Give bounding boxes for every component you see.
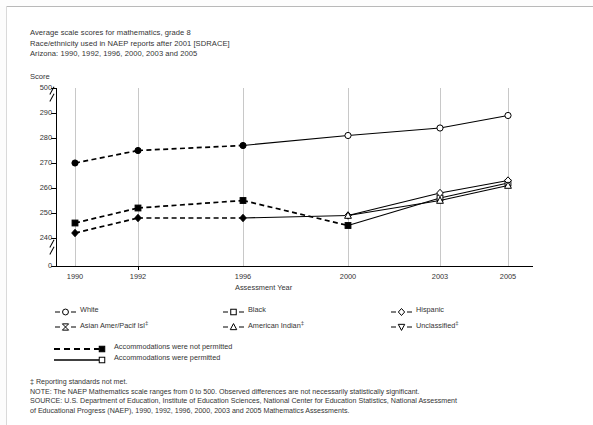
series-line-black bbox=[243, 201, 348, 226]
dashed-line-filled-square-icon bbox=[54, 344, 112, 355]
series-line-black bbox=[440, 183, 508, 198]
triangle-up-icon bbox=[230, 324, 236, 330]
triangle-up-icon bbox=[222, 321, 246, 333]
data-point-black-1996 bbox=[240, 198, 246, 204]
data-point-white-1992 bbox=[135, 147, 141, 153]
legend-label: Black bbox=[248, 305, 266, 314]
source-line-2: of Educational Progress (NAEP), 1990, 19… bbox=[30, 407, 575, 417]
bowtie-icon bbox=[54, 321, 78, 333]
series-line-black bbox=[138, 201, 243, 209]
series-line-hispanic bbox=[243, 216, 348, 219]
plot-area: 500 290 280 270 260 250 240 0 1990 1992 … bbox=[0, 0, 593, 300]
series-line-white bbox=[75, 151, 138, 164]
accommodations-legend-label: Accommodations were not permitted bbox=[114, 342, 232, 351]
legend-label: Hispanic bbox=[416, 305, 444, 314]
note-scale-range: NOTE: The NAEP Mathematics scale ranges … bbox=[30, 388, 575, 398]
series-line-american-indian bbox=[348, 201, 440, 216]
series-legend: WhiteBlackHispanicAsian Amer/Pacif Isl‡A… bbox=[54, 300, 534, 340]
series-line-white bbox=[138, 146, 243, 151]
legend-label: American Indian‡ bbox=[248, 320, 304, 330]
series-line-white bbox=[440, 116, 508, 129]
triangle-down-icon bbox=[398, 324, 404, 330]
accommodations-legend: Accommodations were not permittedAccommo… bbox=[54, 344, 354, 366]
legend-label: Unclassified‡ bbox=[416, 320, 459, 330]
diamond-icon bbox=[398, 308, 404, 315]
accommodations-legend-label: Accommodations were permitted bbox=[114, 353, 220, 362]
source-line-1: SOURCE: U.S. Department of Education, In… bbox=[30, 397, 575, 407]
series-line-white bbox=[243, 136, 348, 146]
legend-label: Asian Amer/Pacif Isl‡ bbox=[80, 320, 148, 330]
diamond-icon bbox=[390, 306, 414, 318]
reporting-standards-dagger: ‡ bbox=[145, 320, 148, 326]
square-icon bbox=[231, 309, 237, 315]
data-point-white-2003 bbox=[437, 125, 443, 131]
data-point-white-2005 bbox=[505, 112, 511, 118]
series-lines bbox=[0, 0, 593, 300]
data-point-white-1996 bbox=[240, 142, 246, 148]
bowtie-icon bbox=[62, 324, 68, 330]
data-point-hispanic-1992 bbox=[135, 214, 142, 221]
filled-square-icon bbox=[99, 346, 105, 352]
square-icon bbox=[222, 306, 246, 318]
triangle-down-icon bbox=[390, 321, 414, 333]
data-point-black-1992 bbox=[135, 205, 141, 211]
data-point-black-2000 bbox=[345, 223, 351, 229]
chart-page: Average scale scores for mathematics, gr… bbox=[0, 0, 593, 425]
series-line-white bbox=[348, 128, 440, 136]
series-line-american-indian bbox=[440, 186, 508, 201]
data-point-hispanic-1990 bbox=[72, 229, 79, 236]
notes-block: ‡ Reporting standards not met. NOTE: The… bbox=[30, 378, 575, 416]
footnote-reporting-standards: ‡ Reporting standards not met. bbox=[30, 378, 575, 388]
data-point-white-2000 bbox=[345, 132, 351, 138]
circle-icon bbox=[54, 306, 78, 318]
solid-line-open-square-icon bbox=[54, 355, 112, 366]
circle-icon bbox=[63, 309, 69, 315]
data-point-white-1990 bbox=[72, 160, 78, 166]
data-point-black-1990 bbox=[72, 220, 78, 226]
reporting-standards-dagger: ‡ bbox=[301, 320, 304, 326]
data-point-hispanic-1996 bbox=[240, 214, 247, 221]
series-line-hispanic bbox=[440, 181, 508, 194]
open-square-icon bbox=[99, 357, 105, 363]
legend-label: White bbox=[80, 305, 99, 314]
reporting-standards-dagger: ‡ bbox=[455, 320, 458, 326]
